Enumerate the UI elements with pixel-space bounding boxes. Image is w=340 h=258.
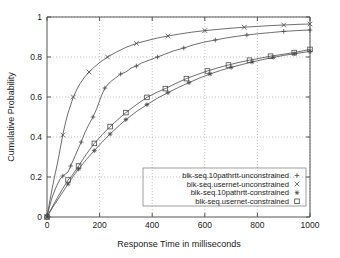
x-tick-label: 0	[45, 220, 50, 230]
chart-figure: 00.20.40.60.8102004006008001000 blk-seq.…	[0, 0, 340, 258]
y-tick-label: 0.2	[30, 172, 42, 182]
x-tick-label: 800	[250, 220, 264, 230]
y-tick-label: 0.8	[30, 52, 42, 62]
legend-label: blk-seq.usernet-constrained	[195, 197, 289, 206]
y-tick-label: 0.6	[30, 92, 42, 102]
cdf-line-chart: 00.20.40.60.8102004006008001000 blk-seq.…	[0, 0, 340, 258]
y-tick-label: 1	[37, 12, 42, 22]
x-axis-title: Response Time in milliseconds	[117, 239, 241, 249]
x-tick-label: 200	[93, 220, 107, 230]
y-tick-label: 0.4	[30, 132, 42, 142]
x-tick-label: 400	[145, 220, 159, 230]
x-tick-label: 600	[198, 220, 212, 230]
x-tick-label: 1000	[301, 220, 320, 230]
chart-background	[0, 0, 340, 258]
y-axis-title: Cumulative Probability	[6, 72, 16, 162]
y-tick-label: 0	[37, 212, 42, 222]
